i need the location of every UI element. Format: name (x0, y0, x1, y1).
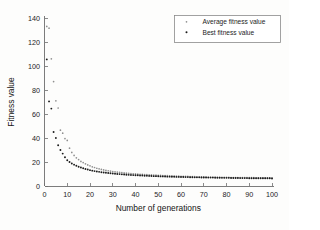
data-point (119, 173, 121, 175)
data-point (182, 176, 184, 178)
data-point (137, 174, 139, 176)
data-point (55, 137, 57, 139)
data-point (55, 100, 57, 102)
x-tick-label: 70 (200, 190, 208, 199)
data-point (230, 177, 232, 179)
data-point (116, 173, 118, 175)
data-point (269, 177, 271, 179)
data-point (207, 177, 209, 179)
data-point (135, 174, 137, 176)
data-point (89, 165, 91, 167)
data-point (253, 177, 255, 179)
data-point (257, 177, 259, 179)
data-point (237, 177, 239, 179)
data-point (191, 176, 193, 178)
data-point (69, 147, 71, 149)
data-point (126, 172, 128, 174)
data-point (239, 177, 241, 179)
y-tick-label: 20 (32, 158, 40, 167)
legend: Average fitness valueBest fitness value (175, 16, 281, 43)
data-point (107, 172, 109, 174)
data-point (123, 172, 125, 174)
data-point (76, 157, 78, 159)
data-point (48, 27, 50, 29)
data-point (80, 167, 82, 169)
data-point (244, 177, 246, 179)
data-point (57, 144, 59, 146)
data-point (53, 81, 55, 83)
data-point (198, 176, 200, 178)
data-point (185, 176, 187, 178)
data-point (201, 177, 203, 179)
data-point (264, 177, 266, 179)
data-point (94, 167, 96, 169)
data-point (226, 177, 228, 179)
data-point (178, 176, 180, 178)
x-tick-label: 20 (86, 190, 94, 199)
data-point (139, 174, 141, 176)
data-point (232, 177, 234, 179)
data-point (119, 172, 121, 174)
data-point (180, 176, 182, 178)
data-point (89, 169, 91, 171)
data-point (219, 177, 221, 179)
x-axis-title: Number of generations (116, 203, 201, 213)
data-point (216, 177, 218, 179)
data-point (91, 170, 93, 172)
data-point (66, 140, 68, 142)
data-point (110, 170, 112, 172)
x-tick-label: 100 (266, 190, 278, 199)
data-point (241, 177, 243, 179)
data-point (53, 131, 55, 133)
data-point (73, 155, 75, 157)
data-point (50, 58, 52, 60)
data-point (64, 156, 66, 158)
y-tick-label: 40 (32, 134, 40, 143)
data-point (221, 177, 223, 179)
data-point (189, 176, 191, 178)
data-point (150, 175, 152, 177)
data-point (173, 176, 175, 178)
data-point (255, 177, 257, 179)
data-point (166, 176, 168, 178)
data-point (144, 175, 146, 177)
data-point (62, 153, 64, 155)
data-point (96, 171, 98, 173)
data-point (78, 166, 80, 168)
data-point (228, 177, 230, 179)
data-point (87, 164, 89, 166)
data-point (112, 171, 114, 173)
legend-marker-average (186, 21, 188, 23)
y-tick-label: 0 (36, 182, 40, 191)
data-point (101, 169, 103, 171)
data-point (116, 171, 118, 173)
data-point (112, 173, 114, 175)
data-point (100, 171, 102, 173)
data-point (94, 170, 96, 172)
x-tick-label: 40 (132, 190, 140, 199)
data-point (148, 175, 150, 177)
data-point (267, 177, 269, 179)
data-point (71, 152, 73, 154)
x-tick-label: 90 (245, 190, 253, 199)
legend-marker-best (186, 31, 188, 33)
data-point (73, 164, 75, 166)
data-point (260, 177, 262, 179)
data-point (62, 132, 64, 134)
data-point (69, 161, 71, 163)
y-tick-label: 100 (28, 62, 40, 71)
data-point (214, 177, 216, 179)
y-tick-label: 80 (32, 86, 40, 95)
data-point (78, 159, 80, 161)
data-point (57, 107, 59, 109)
data-point (235, 177, 237, 179)
data-point (75, 165, 77, 167)
series-best-fitness (46, 58, 273, 179)
data-point (123, 174, 125, 176)
data-point (196, 176, 198, 178)
data-point (153, 175, 155, 177)
data-point (155, 175, 157, 177)
data-point (128, 174, 130, 176)
data-point (87, 169, 89, 171)
x-tick-label: 80 (223, 190, 231, 199)
